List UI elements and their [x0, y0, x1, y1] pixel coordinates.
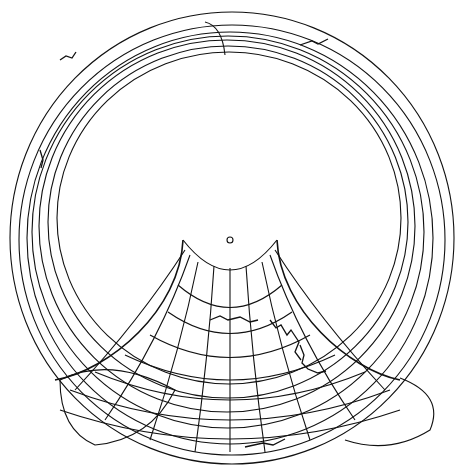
- center-pole-marker: [227, 237, 233, 243]
- graticule-grid: [55, 240, 434, 452]
- map-graphic: [0, 0, 460, 470]
- map-projection: [0, 0, 460, 470]
